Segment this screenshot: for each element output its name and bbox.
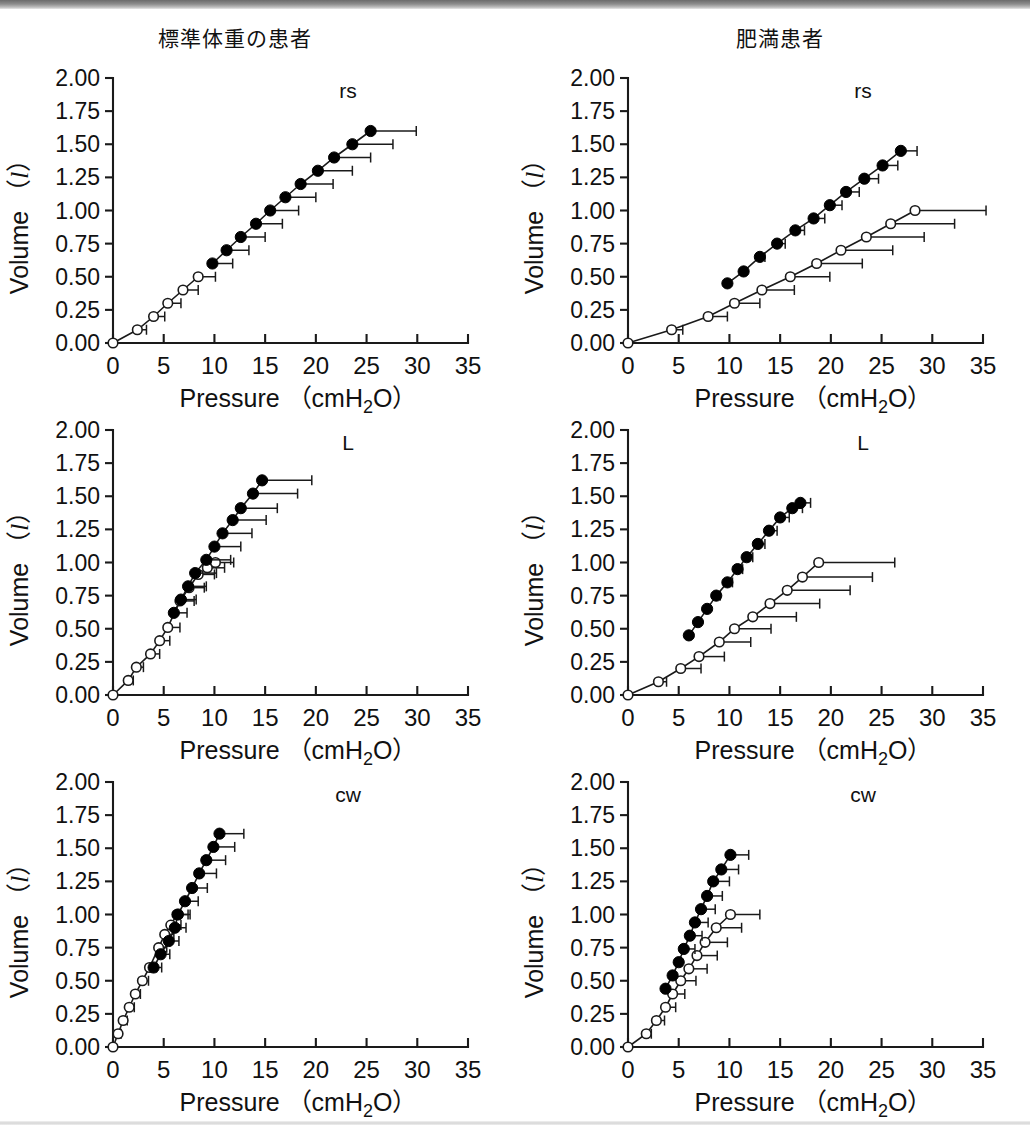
filled-circle-marker [732, 564, 743, 575]
open-circle-marker [782, 586, 792, 596]
y-axis-ticks [105, 782, 113, 1047]
y-tick-label: 1.00 [570, 198, 615, 224]
panel-tag-label: L [857, 431, 869, 454]
x-tick-label: 25 [868, 352, 895, 379]
data-series-open-circle-series [108, 558, 234, 700]
filled-circle-marker [172, 909, 183, 920]
x-axis-ticks [628, 1038, 983, 1047]
y-tick-label: 1.75 [55, 802, 100, 828]
y-tick-label: 1.25 [570, 868, 615, 894]
y-tick-label: 0.75 [570, 935, 615, 961]
filled-circle-marker [660, 983, 671, 994]
panel-L-obese: 0.000.250.500.751.001.251.501.752.000510… [515, 404, 1030, 782]
filled-circle-marker [280, 192, 291, 203]
y-tick-label: 1.50 [55, 835, 100, 861]
y-tick-label: 0.25 [55, 649, 100, 675]
y-axis-label: Volume （l） [5, 147, 33, 294]
filled-circle-marker [722, 278, 733, 289]
error-bars [212, 126, 416, 269]
filled-circle-marker [859, 173, 870, 184]
x-axis-ticks [113, 334, 468, 343]
open-circle-marker [694, 652, 704, 662]
x-tick-label: 35 [455, 1056, 482, 1083]
filled-circle-marker [247, 488, 258, 499]
chart-canvas: 0.000.250.500.751.001.251.501.752.000510… [0, 756, 515, 1131]
filled-circle-marker [741, 552, 752, 563]
x-axis-label: Pressure （cmH2O） [180, 1088, 418, 1121]
open-circle-marker [108, 690, 118, 700]
open-circle-marker [123, 676, 133, 686]
x-tick-label: 15 [252, 1056, 279, 1083]
y-tick-label: 1.75 [570, 98, 615, 124]
open-circle-marker [703, 312, 713, 322]
y-axis-ticks [620, 782, 628, 1047]
filled-circle-marker [329, 152, 340, 163]
open-circle-marker [193, 272, 203, 282]
filled-circle-marker [148, 962, 159, 973]
filled-circle-marker [155, 949, 166, 960]
x-tick-label: 10 [716, 704, 743, 731]
filled-circle-marker [312, 165, 323, 176]
error-bars [760, 146, 917, 262]
x-tick-label: 10 [201, 704, 228, 731]
x-tick-label: 10 [201, 352, 228, 379]
y-axis-label: Volume （l） [520, 147, 548, 294]
filled-circle-marker [678, 943, 689, 954]
y-axis-ticks [105, 78, 113, 343]
x-tick-label: 15 [767, 704, 794, 731]
x-tick-label: 35 [970, 352, 997, 379]
open-circle-marker [785, 272, 795, 282]
y-axis-label: Volume （l） [5, 851, 33, 998]
x-axis-tick-labels: 05101520253035 [621, 352, 996, 379]
x-tick-label: 35 [970, 704, 997, 731]
x-axis-ticks [113, 1038, 468, 1047]
open-circle-marker [178, 285, 188, 295]
x-tick-label: 20 [818, 352, 845, 379]
open-circle-marker [814, 558, 824, 568]
chart-canvas: 0.000.250.500.751.001.251.501.752.000510… [0, 52, 515, 430]
y-tick-label: 1.50 [570, 835, 615, 861]
open-circle-marker [652, 1016, 662, 1026]
chart-canvas: 0.000.250.500.751.001.251.501.752.000510… [515, 404, 1030, 782]
y-tick-label: 1.25 [55, 516, 100, 542]
open-circle-marker [798, 572, 808, 582]
x-axis-label: Pressure （cmH2O） [695, 1088, 933, 1121]
y-tick-label: 1.00 [55, 550, 100, 576]
x-tick-label: 0 [621, 352, 634, 379]
y-tick-label: 1.00 [570, 550, 615, 576]
filled-circle-marker [168, 607, 179, 618]
svg-text:Volume （l）: Volume （l） [520, 499, 548, 646]
filled-circle-marker [182, 581, 193, 592]
x-tick-label: 15 [252, 352, 279, 379]
x-tick-label: 0 [106, 1056, 119, 1083]
filled-circle-marker [217, 528, 228, 539]
filled-circle-marker [795, 497, 806, 508]
filled-circle-marker [711, 590, 722, 601]
open-circle-marker [149, 312, 159, 322]
panel-tag-label: cw [335, 783, 362, 806]
x-tick-label: 25 [868, 704, 895, 731]
x-tick-label: 5 [157, 704, 170, 731]
y-tick-label: 0.00 [55, 330, 100, 356]
filled-circle-marker [673, 957, 684, 968]
filled-circle-marker [235, 503, 246, 514]
filled-circle-marker [808, 213, 819, 224]
x-tick-label: 0 [621, 704, 634, 731]
axes [628, 430, 983, 695]
x-tick-label: 20 [818, 1056, 845, 1083]
filled-circle-marker [265, 205, 276, 216]
y-tick-label: 0.75 [570, 583, 615, 609]
error-bars [128, 558, 233, 686]
y-tick-label: 1.50 [570, 131, 615, 157]
y-tick-label: 0.75 [55, 935, 100, 961]
x-tick-label: 25 [353, 704, 380, 731]
y-tick-label: 0.25 [570, 1001, 615, 1027]
y-tick-label: 2.00 [55, 769, 100, 795]
x-tick-label: 25 [353, 1056, 380, 1083]
y-tick-label: 1.00 [55, 198, 100, 224]
data-series-filled-circle-series [148, 828, 244, 973]
y-tick-label: 1.50 [55, 483, 100, 509]
chart-canvas: 0.000.250.500.751.001.251.501.752.000510… [515, 52, 1030, 430]
x-tick-label: 30 [919, 352, 946, 379]
filled-circle-marker [722, 577, 733, 588]
